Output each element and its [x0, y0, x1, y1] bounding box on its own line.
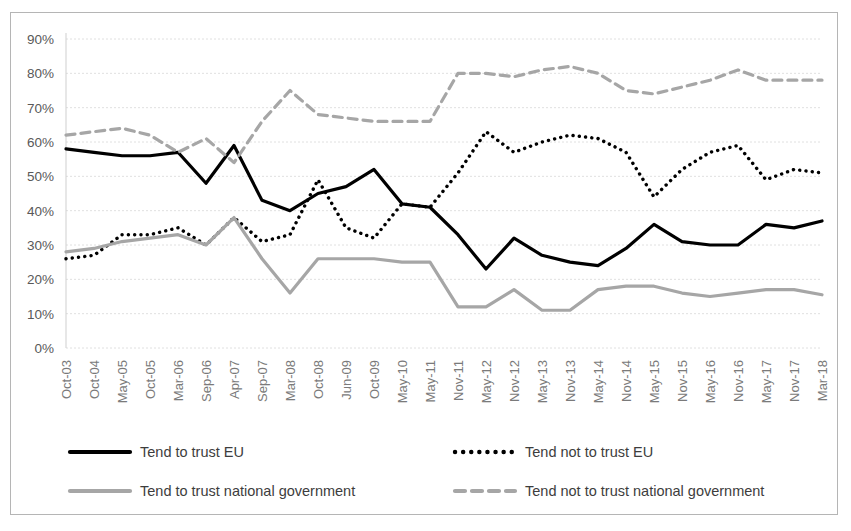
series-group: [66, 66, 822, 310]
x-axis-tick-label: Nov-15: [675, 360, 690, 402]
x-axis-tick-label: Jun-09: [339, 360, 354, 400]
legend: Tend to trust EUTend not to trust EUTend…: [70, 444, 764, 499]
y-axis-tick-label: 30%: [27, 238, 54, 253]
y-axis-tick-label: 80%: [27, 66, 54, 81]
line-chart: 0%10%20%30%40%50%60%70%80%90%Oct-03Oct-0…: [0, 0, 851, 531]
x-axis-tick-label: May-16: [703, 360, 718, 403]
x-axis-tick-label: Nov-14: [619, 360, 634, 402]
series-line-0: [66, 145, 822, 269]
x-axis-tick-label: May-17: [759, 360, 774, 403]
chart-container: 0%10%20%30%40%50%60%70%80%90%Oct-03Oct-0…: [0, 0, 851, 531]
x-axis-tick-label: Nov-16: [731, 360, 746, 402]
series-line-2: [66, 218, 822, 311]
y-axis-tick-label: 50%: [27, 169, 54, 184]
x-axis-tick-label: Oct-03: [59, 360, 74, 399]
x-axis-tick-label: Sep-07: [255, 360, 270, 402]
legend-item-0[interactable]: Tend to trust EU: [70, 444, 244, 460]
legend-label-2: Tend to trust national government: [140, 483, 355, 499]
x-axis-tick-label: Apr-07: [227, 360, 242, 399]
x-axis-tick-label: Oct-05: [143, 360, 158, 399]
x-axis-tick-label: May-13: [535, 360, 550, 403]
legend-label-0: Tend to trust EU: [140, 444, 244, 460]
x-axis-labels-group: Oct-03Oct-04May-05Oct-05Mar-06Sep-06Apr-…: [59, 360, 830, 403]
x-axis-tick-label: May-14: [591, 360, 606, 403]
y-axis-tick-label: 20%: [27, 272, 54, 287]
x-axis-tick-label: May-12: [479, 360, 494, 403]
x-axis-tick-label: Mar-18: [815, 360, 830, 401]
x-axis-tick-label: Nov-12: [507, 360, 522, 402]
x-axis-tick-label: May-10: [395, 360, 410, 403]
legend-item-2[interactable]: Tend to trust national government: [70, 483, 355, 499]
x-axis-tick-label: May-05: [115, 360, 130, 403]
legend-item-1[interactable]: Tend not to trust EU: [455, 444, 653, 460]
x-axis-tick-label: Nov-11: [451, 360, 466, 401]
y-axis-tick-label: 10%: [27, 307, 54, 322]
x-axis-tick-label: Nov-17: [787, 360, 802, 402]
x-axis-tick-label: Mar-06: [171, 360, 186, 401]
series-line-3: [66, 66, 822, 162]
legend-item-3[interactable]: Tend not to trust national government: [455, 483, 764, 499]
legend-label-3: Tend not to trust national government: [525, 483, 764, 499]
x-axis-tick-label: Oct-08: [311, 360, 326, 399]
y-axis-tick-label: 90%: [27, 32, 54, 47]
x-axis-tick-label: May-11: [423, 360, 438, 402]
y-axis-tick-label: 40%: [27, 204, 54, 219]
x-axis-tick-label: Oct-04: [87, 360, 102, 399]
y-axis-tick-label: 70%: [27, 101, 54, 116]
legend-label-1: Tend not to trust EU: [525, 444, 653, 460]
x-axis-tick-label: Nov-13: [563, 360, 578, 402]
x-axis-tick-label: Oct-09: [367, 360, 382, 399]
x-axis-tick-label: Sep-06: [199, 360, 214, 402]
y-axis-tick-label: 0%: [34, 341, 54, 356]
x-axis-tick-label: Mar-08: [283, 360, 298, 401]
x-axis-tick-label: May-15: [647, 360, 662, 403]
y-axis-tick-label: 60%: [27, 135, 54, 150]
